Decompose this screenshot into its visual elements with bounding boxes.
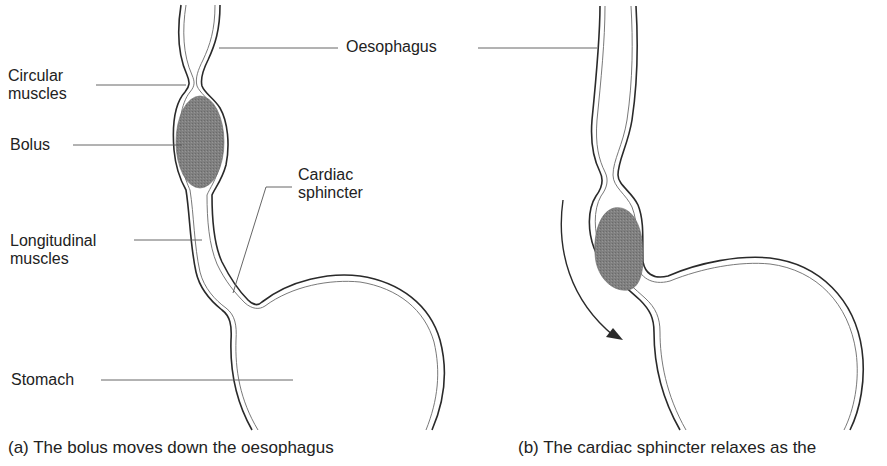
digestion-diagram: Circular muscles Bolus Longitudinal musc… <box>0 0 887 466</box>
leader-cardiac-sphincter <box>233 187 292 293</box>
label-oesophagus: Oesophagus <box>346 38 437 56</box>
bolus-a <box>176 96 224 188</box>
arrow-head-icon <box>606 328 623 340</box>
label-stomach: Stomach <box>11 371 74 389</box>
label-cardiac-sphincter: Cardiac sphincter <box>298 166 363 202</box>
caption-panel-b: (b) The cardiac sphincter relaxes as the <box>518 438 816 458</box>
label-cardiac-line1: Cardiac <box>298 166 363 184</box>
bolus-b <box>595 208 643 291</box>
label-bolus: Bolus <box>10 136 50 154</box>
label-circular-line2: muscles <box>8 85 67 103</box>
label-longitudinal-muscles: Longitudinal muscles <box>10 232 96 268</box>
panel-a-drawing <box>73 5 444 430</box>
label-circular-line1: Circular <box>8 67 67 85</box>
label-cardiac-line2: sphincter <box>298 184 363 202</box>
label-longitudinal-line1: Longitudinal <box>10 232 96 250</box>
panel-b-drawing <box>478 6 863 430</box>
label-longitudinal-line2: muscles <box>10 250 96 268</box>
oesophagus-b-right-wall-inner <box>613 6 857 430</box>
label-circular-muscles: Circular muscles <box>8 67 67 103</box>
oesophagus-right-wall <box>201 5 444 430</box>
diagram-artwork <box>0 0 887 466</box>
oesophagus-b-right-wall <box>618 6 863 430</box>
oesophagus-left-wall-inner <box>179 5 258 430</box>
caption-panel-a: (a) The bolus moves down the oesophagus <box>8 438 334 458</box>
